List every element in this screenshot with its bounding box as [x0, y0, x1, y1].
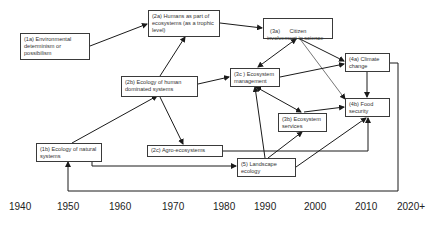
edge-1b-2b	[72, 96, 157, 143]
edge-3c-4a	[280, 64, 344, 77]
node-3b-ecosystem-services: (3b) Ecosystem services	[278, 113, 327, 132]
node-label: (2c) Agro-ecosystems	[151, 147, 205, 153]
node-label: (4b) Food security	[349, 101, 373, 114]
edge-3b-4b	[304, 107, 344, 112]
node-label: (3c ) Ecosystem management	[234, 71, 274, 84]
node-label: (1a) Environmental determinism or possib…	[24, 36, 71, 56]
year-1950: 1950	[57, 201, 79, 212]
edge-2b-3c	[198, 77, 229, 84]
edge-2a-3a	[220, 23, 262, 28]
node-1b-ecology-natural-systems: (1b) Ecology of natural systems	[36, 143, 102, 162]
year-1980: 1980	[213, 201, 235, 212]
node-3c-ecosystem-management: (3c ) Ecosystem management	[230, 68, 280, 87]
node-1a-environmental-determinism: (1a) Environmental determinism or possib…	[20, 33, 90, 60]
edge-1b-5	[92, 161, 236, 166]
node-2b-human-dominated-systems: (2b) Ecology of human dominated systems	[121, 76, 198, 97]
edge-1a-2a	[90, 24, 147, 46]
node-label: (3b) Ecosystem services	[282, 116, 321, 129]
node-3a-citizen-involvement: (3a) Citizen involvement in science	[263, 18, 333, 39]
year-1990: 1990	[254, 201, 276, 212]
edge-3a-3c	[258, 39, 296, 67]
node-label: (2a) Humans as part of ecosystems (as a …	[152, 13, 214, 33]
edge-3a-4b	[300, 39, 345, 99]
node-2a-humans-part-of-ecosystems: (2a) Humans as part of ecosystems (as a …	[148, 10, 220, 37]
edge-3c-3b	[256, 87, 301, 112]
node-5-landscape-ecology: (5) Landscape ecology	[237, 158, 296, 177]
edge-5-3c	[255, 87, 265, 158]
node-4b-food-security: (4b) Food security	[345, 98, 390, 117]
node-label: (5) Landscape ecology	[241, 161, 277, 174]
year-1940: 1940	[9, 201, 31, 212]
year-2000: 2000	[304, 201, 326, 212]
edge-2b-2a	[160, 37, 185, 76]
year-2020-plus: 2020+	[397, 201, 425, 212]
node-label: (2b) Ecology of human dominated systems	[125, 79, 181, 92]
node-2c-agro-ecosystems: (2c) Agro-ecosystems	[147, 145, 223, 157]
year-1960: 1960	[109, 201, 131, 212]
node-label: (4a) Climate change	[349, 56, 379, 69]
node-label: (1b) Ecology of natural systems	[40, 146, 96, 159]
node-label: (3a) Citizen involvement in science	[267, 28, 323, 41]
year-1970: 1970	[162, 201, 184, 212]
year-2010: 2010	[355, 201, 377, 212]
node-4a-climate-change: (4a) Climate change	[345, 53, 390, 72]
edge-2b-2c	[160, 97, 183, 144]
edge-5-3b	[268, 132, 302, 158]
